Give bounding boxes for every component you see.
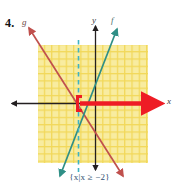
y-axis-label: y: [92, 15, 96, 25]
curve-label-g: g: [22, 17, 27, 27]
solution-set-notation: {x|x ≥ −2}: [0, 172, 179, 182]
curve-label-f: f: [111, 15, 114, 25]
problem-number: 4.: [5, 16, 14, 31]
coordinate-plane-graphic: [0, 0, 179, 192]
x-axis-label: x: [167, 96, 171, 106]
graph-figure: 4.: [0, 0, 179, 192]
